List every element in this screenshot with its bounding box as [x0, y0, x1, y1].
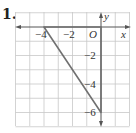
- x-tick-label: −2: [63, 28, 75, 40]
- x-axis-label: x: [120, 28, 126, 40]
- y-tick-label: −4: [84, 78, 96, 90]
- origin-label: O: [89, 28, 97, 40]
- y-axis-down-arrow-icon: [99, 121, 103, 127]
- x-tick-label: −4: [35, 28, 47, 40]
- x-axis-right-arrow-icon: [125, 25, 131, 29]
- y-tick-label: −6: [84, 106, 96, 118]
- y-axis-label: y: [103, 10, 109, 22]
- y-tick-label: −2: [84, 49, 96, 61]
- coordinate-plane: y x O −4 −2 −2 −4 −6: [0, 0, 136, 133]
